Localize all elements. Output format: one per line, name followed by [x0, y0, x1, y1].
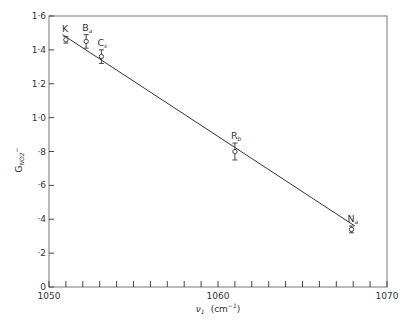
point-marker	[349, 227, 353, 231]
point-label: Ba	[82, 22, 93, 34]
y-tick-label: 1·0	[32, 113, 47, 123]
chart: 0·2·4·6·81·01·21·41·6 105010601070 KBaCs…	[0, 0, 410, 329]
x-tick-label: 1060	[207, 291, 230, 301]
data-point: Ba	[82, 22, 93, 49]
point-marker	[84, 39, 88, 43]
point-label: Cs	[97, 37, 107, 49]
fit-line	[63, 35, 355, 226]
x-tick-label: 1050	[38, 291, 61, 301]
y-tick-label: 1·2	[32, 79, 46, 89]
y-tick-label: 1·4	[32, 45, 47, 55]
y-axis-title: GNO2−	[13, 147, 25, 172]
x-axis: 105010601070	[38, 281, 399, 301]
y-tick-label: 1·6	[32, 11, 47, 21]
point-marker	[64, 38, 68, 42]
y-axis: 0·2·4·6·81·01·21·41·6	[32, 11, 54, 292]
data-point: K	[62, 23, 69, 43]
y-tick-label: ·2	[37, 248, 46, 258]
data-points: KBaCsRbNa	[62, 22, 359, 233]
y-axis-title-sub: NO	[18, 156, 25, 165]
point-marker	[233, 149, 237, 153]
x-axis-title: ν1(cm−1)	[196, 302, 240, 315]
y-tick-label: ·8	[37, 147, 46, 157]
y-tick-label: ·6	[37, 180, 46, 190]
svg-text:GNO2−: GNO2−	[13, 147, 25, 172]
data-point: Rb	[231, 130, 242, 160]
point-label: Rb	[231, 130, 242, 142]
y-axis-title-sup: −	[13, 147, 20, 152]
y-axis-title-main: G	[14, 166, 24, 173]
svg-text:ν1(cm−1): ν1(cm−1)	[196, 302, 240, 315]
x-tick-label: 1070	[376, 291, 399, 301]
point-label: K	[62, 23, 69, 34]
y-tick-label: ·4	[37, 214, 46, 224]
data-point: Cs	[97, 37, 107, 64]
data-point: Na	[348, 213, 359, 233]
point-label: Na	[348, 213, 359, 225]
point-marker	[99, 54, 103, 58]
